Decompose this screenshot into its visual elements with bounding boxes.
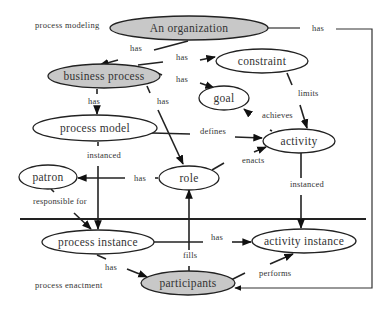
region-label-enactment: process enactment (35, 280, 103, 290)
node-activity[interactable]: activity (263, 129, 335, 153)
edge-label: instanced (87, 150, 121, 160)
node-goal[interactable]: goal (199, 86, 249, 110)
edge-label: has (105, 262, 117, 272)
edge-label: has (130, 43, 142, 53)
node-constraint[interactable]: constraint (216, 49, 308, 73)
node-label: activity (281, 135, 318, 148)
node-label: process instance (58, 236, 138, 249)
edge-label: instanced (290, 179, 324, 189)
region-label-modeling: process modeling (35, 20, 100, 30)
node-label: process model (60, 122, 130, 135)
edge-participants-activity-instance: performs (231, 254, 293, 280)
node-participants[interactable]: participants (141, 271, 235, 295)
node-label: role (179, 172, 198, 184)
edge-label: achieves (262, 110, 293, 120)
node-business-process[interactable]: business process (48, 64, 160, 88)
edge-label: has (176, 74, 188, 84)
node-label: patron (32, 171, 63, 184)
edge-label: has (176, 52, 188, 62)
edge-label: enacts (242, 155, 264, 165)
node-label: goal (214, 92, 235, 105)
edge-label: defines (200, 126, 226, 136)
edge-label: has (211, 232, 223, 242)
edge-label: performs (259, 268, 291, 278)
process-concept-diagram: process modeling process enactment has h… (0, 0, 391, 312)
edge-role-patron: has (78, 173, 158, 183)
node-process-instance[interactable]: process instance (42, 230, 154, 254)
edge-process-instance-participants: has (97, 255, 147, 277)
edge-business-process-goal: has (155, 72, 214, 88)
edge-role-activity: enacts (212, 147, 266, 170)
edge-process-model-process-instance: instanced (87, 142, 121, 229)
node-label: business process (63, 70, 144, 83)
edge-patron-process-instance: responsible for (33, 189, 91, 229)
node-patron[interactable]: patron (19, 165, 77, 189)
edge-label: has (88, 96, 100, 106)
edge-label: has (157, 96, 169, 106)
node-process-model[interactable]: process model (33, 115, 157, 141)
node-label: An organization (150, 22, 229, 35)
node-label: participants (159, 277, 216, 290)
node-role[interactable]: role (159, 166, 219, 190)
edge-business-process-constraint: has (138, 52, 215, 65)
edge-activity-activity-instance: instanced (290, 153, 324, 228)
edge-process-instance-activity-instance: has (154, 232, 251, 242)
edge-label: fills (183, 250, 197, 260)
node-activity-instance[interactable]: activity instance (252, 229, 356, 253)
node-label: activity instance (264, 235, 344, 248)
edge-org-business-process: has (100, 41, 188, 65)
node-label: constraint (238, 55, 287, 67)
edge-label: has (134, 173, 146, 183)
edge-participants-role: fills (183, 190, 197, 271)
edge-label: responsible for (33, 196, 87, 206)
edge-label: has (312, 23, 324, 33)
edge-activity-goal: achieves (244, 109, 293, 131)
edge-business-process-process-model: has (88, 89, 100, 114)
edge-label: limits (298, 88, 319, 98)
node-an-organization[interactable]: An organization (110, 16, 268, 40)
